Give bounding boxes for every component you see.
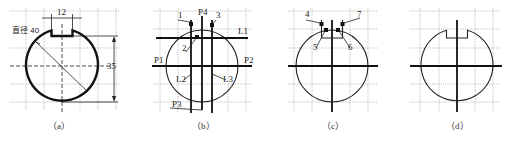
caption-b: （b） <box>192 121 215 131</box>
label-l2: L2 <box>176 74 186 84</box>
label-2: 2 <box>182 43 187 53</box>
diameter-label: 直径 40 <box>12 25 40 35</box>
panel-a: 直径 40 12 35 （a） <box>0 0 130 143</box>
caption-c: （c） <box>322 121 344 131</box>
point-1 <box>189 22 193 26</box>
grid <box>410 8 500 112</box>
drawing-b-construction-lines: 1 2 3 P4 L1 P1 P2 L2 L3 P3 （b） <box>130 0 260 143</box>
panel-b: 1 2 3 P4 L1 P1 P2 L2 L3 P3 （b） <box>130 0 260 143</box>
label-7: 7 <box>357 9 362 19</box>
label-p4: P4 <box>198 7 208 17</box>
label-p1: P1 <box>154 55 164 65</box>
caption-a: （a） <box>48 121 70 131</box>
point-4 <box>320 22 324 26</box>
label-p2: P2 <box>244 55 254 65</box>
label-l3: L3 <box>223 74 233 84</box>
label-p3: P3 <box>172 99 182 109</box>
label-3: 3 <box>216 10 221 20</box>
height-label: 35 <box>107 61 117 71</box>
caption-d: （d） <box>446 121 469 131</box>
point-7 <box>341 22 345 26</box>
panel-c: 4 5 6 7 （c） <box>260 0 390 143</box>
label-1: 1 <box>178 10 183 20</box>
slot-width-label: 12 <box>57 7 66 17</box>
label-5: 5 <box>313 42 318 52</box>
drawing-d-final-keyed-circle: （d） <box>390 0 507 143</box>
grid <box>288 8 378 112</box>
label-4: 4 <box>305 9 310 19</box>
label-l1: L1 <box>238 26 248 36</box>
label-6: 6 <box>348 42 353 52</box>
panel-d: （d） <box>390 0 507 143</box>
drawing-c-trim-points: 4 5 6 7 （c） <box>260 0 390 143</box>
drawing-a-dimensioned-keyed-circle: 直径 40 12 35 （a） <box>0 0 130 143</box>
